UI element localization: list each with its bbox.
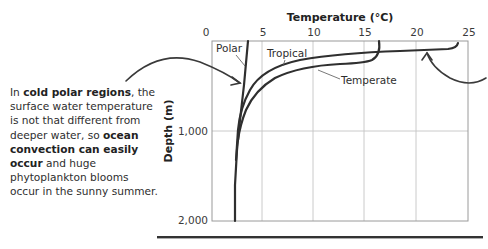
label-tropical: Tropical [266, 47, 307, 59]
arrow-left-annotation [126, 58, 240, 85]
label-polar: Polar [216, 42, 243, 54]
y-axis-title: Depth (m) [162, 100, 175, 163]
x-tick-25: 25 [462, 26, 475, 38]
leader-polar [236, 55, 245, 66]
label-temperate: Temperate [340, 74, 397, 86]
bottom-rule [157, 236, 483, 238]
curve-temperate [238, 41, 379, 140]
depth-temperature-chart: Temperature (°C) 0 5 10 15 20 25 Depth (… [0, 0, 488, 249]
x-tick-5: 5 [260, 26, 267, 38]
arrow-right-annotation [422, 53, 486, 83]
y-tick-2000: 2,000 [178, 214, 208, 226]
x-tick-labels: 0 5 10 15 20 25 [203, 26, 476, 38]
x-tick-15: 15 [358, 26, 371, 38]
leader-temperate [318, 70, 340, 79]
x-tick-10: 10 [307, 26, 320, 38]
y-tick-1000: 1,000 [178, 125, 208, 137]
x-axis-title: Temperature (°C) [287, 11, 394, 24]
x-tick-0: 0 [203, 26, 210, 38]
curve-tropical [236, 43, 458, 160]
x-tick-20: 20 [410, 26, 423, 38]
grid-lines [212, 41, 468, 221]
